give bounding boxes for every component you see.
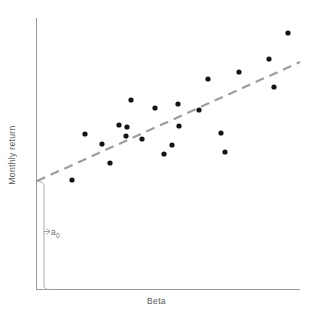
data-point: [124, 124, 129, 129]
plot-canvas: [0, 0, 313, 316]
bracket-arrow-icon: [44, 229, 50, 235]
data-point: [222, 149, 227, 154]
data-point: [266, 56, 271, 61]
intercept-subscript: 0: [56, 232, 60, 239]
data-point: [205, 76, 210, 81]
data-point: [107, 160, 112, 165]
x-axis-label: Beta: [0, 296, 313, 306]
data-point: [196, 107, 201, 112]
data-point: [128, 97, 133, 102]
data-point: [176, 123, 181, 128]
data-point: [123, 133, 128, 138]
data-point: [271, 84, 276, 89]
data-point: [69, 177, 74, 182]
data-point-group: [69, 30, 290, 182]
data-point: [169, 142, 174, 147]
intercept-annotation-label: a0: [51, 227, 60, 239]
data-point: [161, 151, 166, 156]
data-point: [175, 101, 180, 106]
data-point: [218, 130, 223, 135]
data-point: [236, 69, 241, 74]
data-point: [285, 30, 290, 35]
intercept-bracket: [38, 182, 51, 290]
data-point: [116, 122, 121, 127]
data-point: [99, 141, 104, 146]
data-point: [82, 131, 87, 136]
data-point: [152, 105, 157, 110]
regression-trendline: [37, 62, 300, 181]
y-axis-label: Monthly return: [7, 119, 17, 191]
scatter-plot-figure: Monthly return Beta a0: [0, 0, 313, 316]
data-point: [139, 136, 144, 141]
